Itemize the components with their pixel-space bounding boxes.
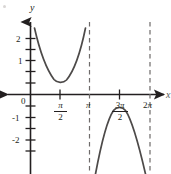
x-tick-label-pi: π: [86, 101, 91, 110]
x-tick-label-3pi-over-2: 3π 2: [112, 101, 128, 122]
x-tick-label-pi-over-2: π 2: [54, 101, 67, 122]
y-tick-label-1: 1: [18, 57, 23, 66]
three-pi-over-2-denominator: 2: [112, 112, 128, 122]
origin-label: 0: [21, 97, 26, 106]
y-tick-label-minus-2: -2: [12, 136, 20, 145]
y-tick-label-2: 2: [16, 35, 21, 44]
y-tick-label-minus-1: -1: [12, 114, 20, 123]
function-plot: [0, 0, 171, 174]
three-pi-over-2-numerator: 3π: [112, 101, 128, 110]
pi-over-2-denominator: 2: [54, 112, 67, 122]
pi-over-2-numerator: π: [54, 101, 67, 110]
x-tick-label-2pi: 2π: [143, 101, 152, 110]
figure-container: y x 2 1 0 -1 -2 π 2 π 3π 2 2π: [0, 0, 171, 174]
x-axis-label: x: [166, 90, 170, 100]
curve-branch-1: [35, 28, 86, 82]
y-axis-label: y: [30, 3, 34, 13]
